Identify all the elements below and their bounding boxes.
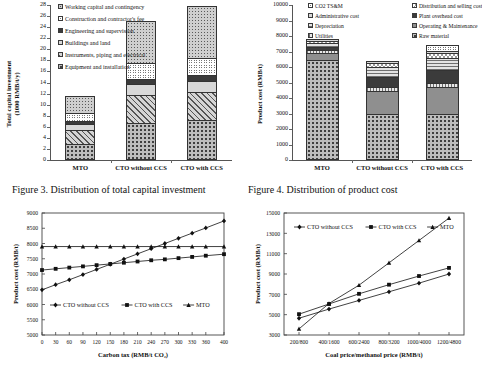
bar-segment bbox=[306, 41, 339, 43]
legend-label: CO2 TS&M bbox=[315, 3, 343, 9]
data-point-marker bbox=[135, 251, 139, 256]
bar-segment bbox=[187, 75, 217, 81]
data-point-marker bbox=[417, 281, 421, 286]
figure-4-caption: Figure 4. Distribution of product cost bbox=[248, 184, 397, 195]
fig5-y-axis-title: Product cost (RMB/t) bbox=[12, 244, 20, 304]
fig6-x-axis-title: Coal price/methanol price (RMB/t) bbox=[325, 351, 422, 359]
fig6-y-tick-label: 7000 bbox=[269, 292, 280, 298]
bar-segment bbox=[426, 70, 459, 83]
fig4-y-tick-label: 1000 bbox=[258, 141, 288, 147]
fig4-y-tick-label: 8000 bbox=[258, 32, 288, 38]
bar-segment bbox=[306, 43, 339, 48]
legend-swatch bbox=[58, 64, 63, 69]
data-point-marker bbox=[81, 272, 85, 277]
legend-marker bbox=[125, 303, 129, 307]
fig4-y-tick-mark bbox=[289, 129, 292, 130]
fig5-x-tick-label: 210 bbox=[134, 339, 142, 345]
data-point-marker bbox=[222, 219, 226, 224]
bar-segment bbox=[366, 87, 399, 91]
fig4-y-tick-label: 5000 bbox=[258, 79, 288, 85]
legend-label: Operating & Maintenance bbox=[419, 23, 477, 29]
fig3-x-tick-label: CTO with CCS bbox=[171, 164, 232, 171]
bar-segment bbox=[426, 53, 459, 58]
fig4-y-axis bbox=[292, 5, 293, 160]
bar-segment bbox=[187, 81, 217, 92]
fig5-y-tick-label: 6500 bbox=[27, 286, 38, 292]
bar-segment bbox=[187, 92, 217, 119]
fig4-y-tick-label: 3000 bbox=[258, 110, 288, 116]
fig4-y-tick-mark bbox=[289, 36, 292, 37]
fig5-y-tick-label: 8500 bbox=[27, 225, 38, 231]
fig3-y-tick-mark bbox=[47, 49, 50, 50]
data-point-marker bbox=[447, 272, 451, 277]
bar-segment bbox=[366, 61, 399, 63]
bar-segment bbox=[366, 114, 399, 160]
data-point-marker bbox=[417, 274, 421, 278]
fig5-x-tick-label: 270 bbox=[161, 339, 169, 345]
fig5-x-tick-label: 360 bbox=[202, 339, 210, 345]
legend-label: Construction and contractor's fee bbox=[65, 16, 144, 22]
bar-segment bbox=[187, 120, 217, 160]
data-point-marker bbox=[122, 261, 126, 265]
legend-item: Distribution and selling cost bbox=[412, 2, 482, 9]
fig5-x-tick-label: 30 bbox=[53, 339, 59, 345]
fig4-y-tick-mark bbox=[289, 145, 292, 146]
legend-label: Working capital and contingency bbox=[65, 4, 144, 10]
fig3-y-tick-mark bbox=[47, 149, 50, 150]
fig6-x-tick-label: 200/800 bbox=[290, 339, 309, 345]
fig6-y-tick-label: 5000 bbox=[269, 312, 280, 318]
fig6-y-tick-label: 3000 bbox=[269, 332, 280, 338]
fig3-y-axis-title-line1: Total capital investment bbox=[5, 61, 12, 128]
legend-label: CTO with CCS bbox=[379, 223, 418, 230]
fig6-y-axis-title: Product cost (RMB/t) bbox=[254, 244, 262, 304]
fig5-x-tick-label: 90 bbox=[80, 339, 86, 345]
fig6-y-tick-label: 11000 bbox=[266, 251, 280, 257]
data-point-marker bbox=[108, 262, 112, 266]
legend-item: Construction and contractor's fee bbox=[58, 15, 144, 22]
fig5-y-tick-label: 9000 bbox=[27, 210, 38, 216]
bar-segment bbox=[65, 113, 95, 121]
fig6-x-tick-label: 800/3200 bbox=[378, 339, 399, 345]
fig5-y-tick-label: 7500 bbox=[27, 256, 38, 262]
legend-swatch bbox=[412, 23, 417, 28]
bar-segment bbox=[65, 124, 95, 130]
fig3-y-tick-label: 16 bbox=[16, 67, 46, 73]
fig3-x-tick-label: CTO without CCS bbox=[111, 164, 172, 171]
fig3-x-tick-label: MTO bbox=[50, 164, 111, 171]
fig4-y-tick-mark bbox=[289, 52, 292, 53]
fig3-y-tick-label: 2 bbox=[16, 145, 46, 151]
fig3-y-tick-label: 8 bbox=[16, 112, 46, 118]
legend-swatch bbox=[58, 4, 63, 9]
fig5-chart: 5000550060006500700075008000850090000306… bbox=[0, 205, 240, 367]
bar-segment bbox=[126, 79, 156, 85]
fig3-y-tick-label: 18 bbox=[16, 56, 46, 62]
legend-item: Instruments, piping and electrical bbox=[58, 51, 145, 58]
legend-item: Depreciation bbox=[308, 22, 344, 29]
fig5-x-tick-label: 120 bbox=[93, 339, 101, 345]
fig3-y-tick-mark bbox=[47, 27, 50, 28]
fig4-y-tick-mark bbox=[289, 114, 292, 115]
bar-segment bbox=[426, 58, 459, 70]
legend-swatch bbox=[308, 23, 313, 28]
data-point-marker bbox=[357, 283, 361, 287]
fig3-y-tick-mark bbox=[47, 105, 50, 106]
fig3-y-tick-mark bbox=[47, 38, 50, 39]
bar-segment bbox=[65, 130, 95, 144]
fig4-y-tick-label: 6000 bbox=[258, 63, 288, 69]
data-point-marker bbox=[387, 289, 391, 294]
fig4-x-tick-label: CTO with CCS bbox=[412, 164, 472, 171]
data-point-marker bbox=[297, 316, 301, 321]
fig3-y-tick-mark bbox=[47, 138, 50, 139]
fig4-y-tick-label: 7000 bbox=[258, 48, 288, 54]
bar-segment bbox=[366, 77, 399, 88]
fig6-chart: 3000500070009000110001300015000200/80040… bbox=[240, 205, 480, 367]
legend-label: CTO without CCS bbox=[63, 301, 110, 308]
fig4-y-tick-label: 10000 bbox=[258, 1, 288, 7]
fig4-y-tick-label: 9000 bbox=[258, 17, 288, 23]
fig3-y-tick-mark bbox=[47, 94, 50, 95]
data-point-marker bbox=[136, 260, 140, 264]
fig3-y-tick-mark bbox=[47, 83, 50, 84]
data-point-marker bbox=[122, 257, 126, 262]
fig4-x-tick-mark bbox=[412, 160, 413, 163]
fig3-y-tick-mark bbox=[47, 127, 50, 128]
